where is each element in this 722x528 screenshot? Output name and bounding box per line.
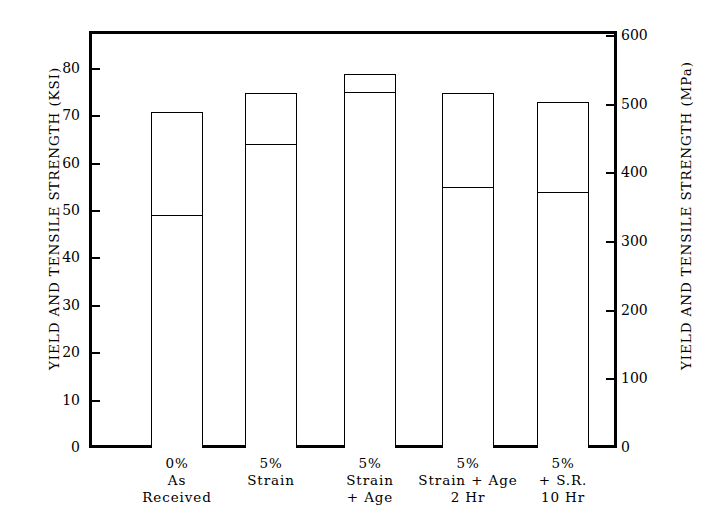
y-tick-left bbox=[89, 115, 100, 117]
x-axis-label-line: 10 Hr bbox=[493, 489, 633, 506]
y-tick-right bbox=[606, 241, 617, 243]
y-tick-right bbox=[606, 310, 617, 312]
yield-strength-line bbox=[443, 187, 493, 188]
y-tick-right bbox=[606, 104, 617, 106]
y-tick-label-left: 40 bbox=[46, 250, 80, 264]
y-tick-label-right: 200 bbox=[621, 303, 661, 317]
x-axis-label-line: 5% bbox=[493, 455, 633, 472]
bar bbox=[537, 102, 589, 448]
y-tick-label-right: 0 bbox=[621, 440, 661, 454]
yield-strength-line bbox=[345, 92, 395, 93]
y-tick-right bbox=[606, 378, 617, 380]
x-axis-label: 5%+ S.R.10 Hr bbox=[493, 455, 633, 506]
y-tick-left bbox=[89, 68, 100, 70]
y-tick-label-right: 300 bbox=[621, 234, 661, 248]
bar bbox=[442, 93, 494, 448]
y-tick-label-left: 30 bbox=[46, 298, 80, 312]
y-tick-label-left: 20 bbox=[46, 345, 80, 359]
y-tick-label-right: 600 bbox=[621, 28, 661, 42]
y-tick-left bbox=[89, 163, 100, 165]
y-tick-label-left: 80 bbox=[46, 61, 80, 75]
x-axis-label-line: Received bbox=[107, 489, 247, 506]
y-tick-label-left: 60 bbox=[46, 156, 80, 170]
bar bbox=[245, 93, 297, 448]
y-tick-label-left: 50 bbox=[46, 203, 80, 217]
bar bbox=[344, 74, 396, 448]
y-tick-label-right: 100 bbox=[621, 371, 661, 385]
y-tick-right bbox=[606, 172, 617, 174]
yield-strength-line bbox=[152, 215, 202, 216]
y-tick-left bbox=[89, 352, 100, 354]
y-tick-right bbox=[606, 35, 617, 37]
y-tick-left bbox=[89, 257, 100, 259]
y-tick-label-right: 500 bbox=[621, 97, 661, 111]
y-axis-title-right: YIELD AND TENSILE STRENGTH (MPa) bbox=[678, 70, 694, 370]
y-tick-label-left: 10 bbox=[46, 393, 80, 407]
chart-canvas: YIELD AND TENSILE STRENGTH (KSI) YIELD A… bbox=[0, 0, 722, 528]
bar bbox=[151, 112, 203, 448]
y-tick-left bbox=[89, 210, 100, 212]
y-tick-left bbox=[89, 305, 100, 307]
x-axis-label-line: + S.R. bbox=[493, 472, 633, 489]
y-tick-left bbox=[89, 400, 100, 402]
y-tick-label-left: 70 bbox=[46, 108, 80, 122]
y-tick-label-right: 400 bbox=[621, 165, 661, 179]
yield-strength-line bbox=[246, 144, 296, 145]
yield-strength-line bbox=[538, 192, 588, 193]
y-tick-label-left: 0 bbox=[46, 440, 80, 454]
